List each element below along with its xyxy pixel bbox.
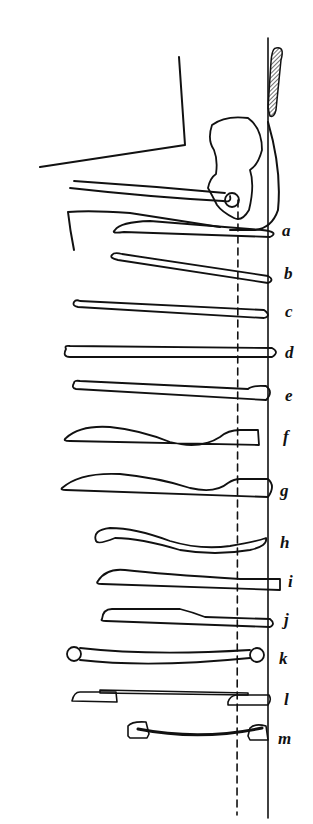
label-g: g (280, 482, 289, 499)
profile-g (62, 474, 273, 497)
profile-f (65, 427, 259, 445)
label-d: d (285, 344, 294, 361)
profile-k-left-roll (67, 647, 81, 661)
label-a: a (282, 222, 291, 239)
diagram-figure: a b c d e f g h i j k l m (0, 0, 313, 824)
profile-k (80, 648, 250, 664)
profile-l-board (100, 690, 248, 695)
profile-m-right-block (248, 725, 268, 740)
label-b: b (284, 265, 293, 282)
profile-m-sling (138, 728, 262, 735)
seat-edge-outline (68, 211, 220, 250)
label-h: h (280, 534, 289, 551)
label-k: k (279, 650, 288, 667)
torso-outline (40, 57, 185, 167)
label-j: j (284, 611, 289, 628)
label-c: c (285, 303, 293, 320)
diagram-drawing (0, 0, 313, 824)
label-m: m (278, 730, 291, 747)
femur-bone (70, 181, 230, 201)
label-f: f (283, 428, 289, 445)
profile-i (97, 570, 280, 590)
profile-d (65, 346, 276, 357)
profile-c (74, 300, 269, 318)
dashed-reference-line (237, 200, 238, 815)
profile-h (95, 528, 266, 553)
profile-b (111, 253, 271, 283)
pelvis-bone (208, 117, 262, 219)
label-l: l (284, 691, 289, 708)
profile-e (73, 381, 270, 400)
profile-j (102, 609, 274, 627)
backrest-shape (268, 48, 282, 117)
hip-joint (225, 193, 239, 207)
profile-k-right-roll (250, 648, 264, 662)
label-e: e (285, 387, 293, 404)
profile-l-right-block (228, 695, 270, 705)
label-i: i (288, 573, 293, 590)
